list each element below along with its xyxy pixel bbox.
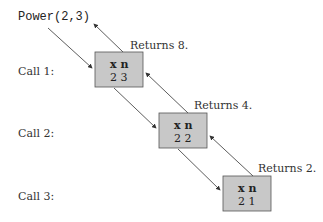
- call-arrow-2: [114, 88, 156, 128]
- call-label-1: Call 1:: [18, 65, 54, 78]
- frame-values-3: 2 1: [238, 195, 256, 208]
- return-arrow-2: [146, 73, 188, 113]
- call-arrow-3: [178, 149, 220, 190]
- frame-values-2: 2 2: [174, 132, 192, 145]
- call-label-2: Call 2:: [18, 127, 54, 140]
- frame-header-3: x n: [238, 182, 256, 195]
- call-label-3: Call 3:: [18, 190, 54, 203]
- return-arrow-3: [210, 136, 253, 176]
- returns-label-2: Returns 4.: [194, 99, 252, 112]
- returns-label-1: Returns 8.: [130, 39, 188, 52]
- frame-header-2: x n: [174, 119, 192, 132]
- return-arrow-1: [94, 24, 123, 52]
- frame-header-1: x n: [110, 58, 128, 71]
- initial-call-text: Power(2,3): [18, 10, 90, 24]
- call-arrow-1: [48, 28, 92, 68]
- returns-label-3: Returns 2.: [258, 162, 316, 175]
- recursion-diagram: Power(2,3) Call 1: x n 2 3 Returns 8. Ca…: [0, 0, 323, 222]
- frame-values-1: 2 3: [110, 71, 128, 84]
